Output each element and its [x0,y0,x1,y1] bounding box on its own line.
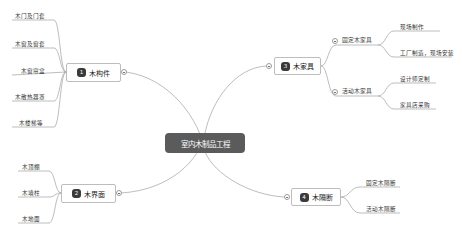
leaf-item[interactable]: 木窗及窗套 [15,40,45,48]
leaf-item[interactable]: 活动木隔断 [366,205,396,213]
leaf-item[interactable]: 现场制作 [400,23,424,31]
mind-map-canvas: 室内木制品工程 1 木构件 木门及门套 木窗及窗套 木窗帘盒 木散热器罩 木楼梯… [0,0,462,235]
leaf-item[interactable]: 工厂制造，现场安装 [400,49,454,57]
number-badge-icon: 3 [281,62,290,71]
leaf-item[interactable]: 家具店采购 [400,101,430,109]
leaf-item[interactable]: 设计师定制 [400,75,430,83]
leaf-item[interactable]: 木楼梯等 [19,119,43,127]
branch-node-wood-partitions[interactable]: 4 木隔断 [291,188,341,206]
leaf-item[interactable]: 木散热器罩 [15,93,45,101]
sub-node-movable-furniture[interactable]: 活动木家具 [342,87,372,95]
sub-node-fixed-furniture[interactable]: 固定木家具 [342,36,372,44]
leaf-item[interactable]: 木地面 [22,215,40,223]
branch-label: 木家具 [293,61,314,71]
leaf-item[interactable]: 木顶棚 [22,163,40,171]
collapse-toggle-icon[interactable] [116,190,122,196]
collapse-toggle-icon[interactable] [332,38,338,44]
number-badge-icon: 2 [72,189,81,198]
leaf-item[interactable]: 木墙柱 [22,189,40,197]
collapse-toggle-icon[interactable] [121,69,127,75]
leaf-item[interactable]: 固定木隔断 [366,179,396,187]
branch-label: 木界面 [84,189,105,199]
root-label: 室内木制品工程 [181,138,230,149]
branch-node-wood-components[interactable]: 1 木构件 [66,63,121,82]
root-node[interactable]: 室内木制品工程 [165,133,245,153]
collapse-toggle-icon[interactable] [332,89,338,95]
collapse-toggle-icon[interactable] [284,194,290,200]
branch-node-wood-furniture[interactable]: 3 木家具 [274,57,321,75]
collapse-toggle-icon[interactable] [266,63,272,69]
branch-node-wood-surfaces[interactable]: 2 木界面 [61,184,116,203]
number-badge-icon: 1 [77,68,86,77]
number-badge-icon: 4 [300,193,309,202]
branch-label: 木构件 [89,68,110,78]
branch-label: 木隔断 [312,192,333,202]
leaf-item[interactable]: 木门及门套 [15,12,45,20]
leaf-item[interactable]: 木窗帘盒 [21,67,45,75]
